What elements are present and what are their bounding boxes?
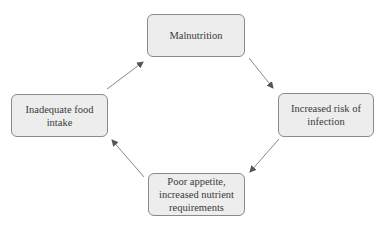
diagram-canvas: Malnutrition Increased risk of infection… [0, 0, 384, 226]
node-label: Malnutrition [169, 29, 222, 42]
node-malnutrition: Malnutrition [147, 14, 245, 57]
node-inadequate-food-intake: Inadequate food intake [11, 94, 108, 137]
arrow-intake-to-malnutrition [107, 62, 143, 89]
arrow-appetite-to-intake [112, 140, 144, 177]
arrow-malnutrition-to-infection [249, 58, 273, 88]
arrow-infection-to-appetite [250, 139, 279, 172]
node-poor-appetite: Poor appetite, increased nutrient requir… [148, 173, 245, 216]
node-label: Increased risk of infection [291, 102, 361, 128]
node-label: Inadequate food intake [26, 103, 94, 129]
node-increased-risk-of-infection: Increased risk of infection [278, 93, 374, 137]
node-label: Poor appetite, increased nutrient requir… [159, 175, 234, 214]
